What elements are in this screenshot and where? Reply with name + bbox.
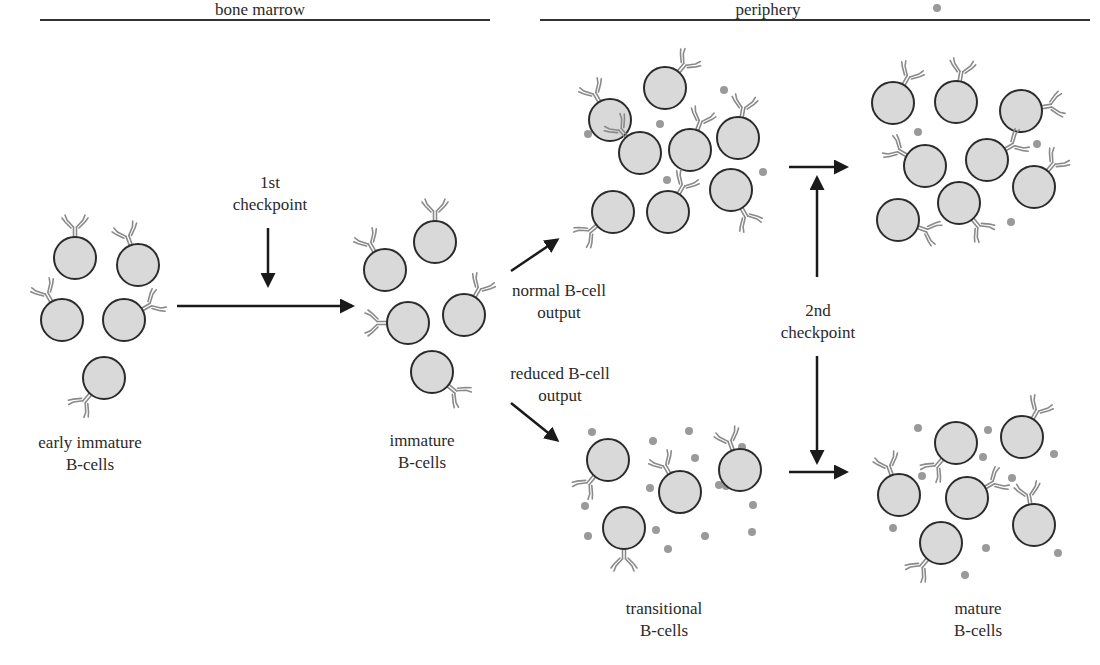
checkpoint2-label: 2nd checkpoint (781, 300, 856, 344)
b-cell (872, 59, 926, 124)
antigen-dot (749, 501, 757, 509)
antigen-dot (748, 528, 756, 536)
antigen-dot (663, 176, 671, 184)
b-cell (54, 215, 96, 279)
antigen-dot (1008, 474, 1016, 482)
b-cell (111, 220, 159, 286)
antigen-dot (656, 120, 664, 128)
antigen-dot (933, 4, 941, 12)
antigen-dot (1033, 140, 1041, 148)
antigen-dot (1054, 549, 1062, 557)
b-cell (935, 57, 977, 123)
antigen-dot (979, 453, 987, 461)
early-immature-label: early immature B-cells (38, 432, 141, 476)
b-cell (938, 182, 997, 244)
transitional-label: transitional B-cells (626, 598, 702, 642)
antigen-dot (646, 484, 654, 492)
b-cell (903, 522, 962, 584)
reduced-output-line2: output (510, 385, 610, 407)
early-immature-line2: B-cells (38, 454, 141, 476)
checkpoint1-label: 1st checkpoint (233, 172, 308, 216)
antigen-dot (691, 454, 699, 462)
b-cell-development-diagram (0, 0, 1100, 665)
bone-marrow-label: bone marrow (215, 0, 305, 20)
b-cell (352, 226, 406, 291)
b-cell (713, 425, 761, 491)
immature-line2: B-cells (389, 452, 454, 474)
antigen-dot (889, 524, 897, 532)
b-cell (414, 199, 456, 263)
immature-line1: immature (389, 430, 454, 452)
antigen-dot (1050, 450, 1058, 458)
mature-label: mature B-cells (954, 598, 1002, 642)
antigen-dot (914, 128, 922, 136)
b-cell (411, 351, 473, 410)
antigen-dot (701, 532, 709, 540)
b-cell (603, 507, 645, 571)
antigen-dot (584, 532, 592, 540)
antigen-dot (1007, 218, 1015, 226)
early-immature-line1: early immature (38, 432, 141, 454)
b-cell (872, 450, 920, 516)
b-cell (946, 465, 1011, 519)
antigen-dot (914, 424, 922, 432)
b-cell (1001, 393, 1055, 458)
b-cell (443, 271, 497, 336)
antigen-dot (961, 571, 969, 579)
b-cell (647, 168, 701, 233)
b-cell (570, 439, 629, 501)
antigen-dot (759, 168, 767, 176)
checkpoint2-line1: 2nd (781, 300, 856, 322)
reduced-output-label: reduced B-cell output (510, 363, 610, 407)
mature-reduced-cells (872, 393, 1055, 584)
b-cell (881, 133, 946, 187)
normal-periphery-cells (572, 47, 764, 250)
b-cell (644, 47, 703, 109)
checkpoint1-line1: 1st (233, 172, 308, 194)
mature-normal-cells (872, 57, 1072, 247)
transitional-line1: transitional (626, 598, 702, 620)
b-cell (29, 276, 83, 341)
immature-label: immature B-cells (389, 430, 454, 474)
b-cell (1013, 146, 1072, 208)
normal-output-arrow (511, 240, 557, 271)
antigen-dot (918, 472, 926, 480)
antigen-dot (649, 437, 657, 445)
reduced-output-line1: reduced B-cell (510, 363, 610, 385)
b-cell (877, 199, 943, 247)
early-immature-cells (29, 215, 167, 419)
b-cell (365, 302, 429, 344)
b-cell (572, 191, 634, 250)
b-cell (103, 287, 168, 341)
normal-output-label: normal B-cell output (512, 280, 606, 324)
antigen-dot (720, 86, 728, 94)
normal-output-line2: output (512, 302, 606, 324)
checkpoint2-line2: checkpoint (781, 322, 856, 344)
b-cell (66, 357, 125, 419)
transitional-line2: B-cells (626, 620, 702, 642)
reduced-output-arrow (511, 403, 557, 440)
normal-output-line1: normal B-cell (512, 280, 606, 302)
b-cell (1013, 480, 1055, 546)
mature-line2: B-cells (954, 620, 1002, 642)
b-cell (1000, 90, 1066, 132)
antigen-dot (984, 426, 992, 434)
immature-cells (352, 199, 497, 410)
antigen-dot (652, 526, 660, 534)
antigen-dot (581, 502, 589, 510)
antigen-dot (664, 545, 672, 553)
checkpoint1-line2: checkpoint (233, 194, 308, 216)
b-cell (717, 93, 759, 159)
antigen-dot (685, 427, 693, 435)
antigen-dot (588, 428, 596, 436)
b-cell (710, 169, 764, 234)
periphery-label: periphery (735, 0, 800, 20)
b-cell (918, 422, 977, 484)
b-cell (669, 105, 717, 171)
antigen-dot (584, 130, 592, 138)
mature-line1: mature (954, 598, 1002, 620)
antigen-dot (982, 544, 990, 552)
